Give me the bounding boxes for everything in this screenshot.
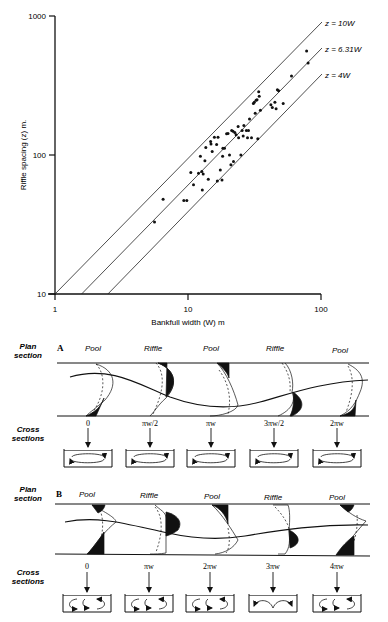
position-b-3: 3πw xyxy=(266,562,280,571)
cross-sections-b xyxy=(63,572,361,612)
position-a-2: πw xyxy=(206,419,216,428)
plan-section-label-b-1: Plan xyxy=(20,485,37,494)
data-point xyxy=(242,135,245,138)
data-point xyxy=(215,143,218,146)
data-point xyxy=(256,137,259,140)
x-tick-100: 100 xyxy=(314,305,328,314)
data-point xyxy=(232,160,235,163)
cross-section-box xyxy=(186,594,234,612)
data-point xyxy=(221,179,224,182)
data-point xyxy=(305,50,308,53)
reference-line-2 xyxy=(108,74,322,294)
cross-sections-label-a-1: Cross xyxy=(17,425,40,434)
cross-sections-a xyxy=(64,428,361,467)
position-b-0: 0 xyxy=(85,562,89,571)
x-axis-label: Bankfull width (W) m xyxy=(151,318,225,327)
cross-sections-label-b-2: sections xyxy=(12,577,45,586)
reach-b-1: Riffle xyxy=(140,491,159,500)
data-point xyxy=(162,198,165,201)
data-point xyxy=(269,103,272,106)
panel-a: Plan section A Pool Riffle Pool Riffle P… xyxy=(12,342,369,467)
cross-section-box xyxy=(125,594,173,612)
data-point xyxy=(202,173,205,176)
position-a-0: 0 xyxy=(86,419,90,428)
data-point xyxy=(199,155,202,158)
data-point xyxy=(221,155,224,158)
data-point xyxy=(257,90,260,93)
y-tick-100: 100 xyxy=(33,151,47,160)
data-point xyxy=(290,75,293,78)
data-point xyxy=(242,124,245,127)
line-label-10w: z = 10W xyxy=(324,19,356,28)
velocity-profiles-b xyxy=(87,505,366,555)
reach-a-3: Riffle xyxy=(266,344,285,353)
data-point xyxy=(273,101,276,104)
data-point xyxy=(235,133,238,136)
data-point xyxy=(219,169,222,172)
data-point xyxy=(210,143,213,146)
data-point xyxy=(248,117,251,120)
thalweg-b xyxy=(65,520,368,539)
data-point xyxy=(207,178,210,181)
position-b-1: πw xyxy=(144,562,154,571)
data-point xyxy=(228,154,231,157)
data-point xyxy=(204,146,207,149)
y-axis-label: Riffle spacing (z) m. xyxy=(19,120,28,191)
position-a-4: 2πw xyxy=(330,419,344,428)
reach-a-1: Riffle xyxy=(144,344,163,353)
data-point xyxy=(246,136,249,139)
data-point xyxy=(256,98,259,101)
position-b-4: 4πw xyxy=(330,562,344,571)
x-tick-10: 10 xyxy=(184,305,193,314)
data-point xyxy=(247,129,250,132)
x-tick-1: 1 xyxy=(53,305,58,314)
reach-b-3: Riffle xyxy=(264,493,283,502)
data-point xyxy=(189,171,192,174)
data-point xyxy=(259,109,262,112)
plan-section-label-a-2: section xyxy=(14,351,42,360)
y-tick-1000: 1000 xyxy=(28,12,46,21)
data-point xyxy=(217,136,220,139)
data-point xyxy=(258,95,261,98)
data-point xyxy=(211,150,214,153)
panel-letter-b: B xyxy=(56,489,62,499)
data-point xyxy=(250,136,253,139)
thalweg-a xyxy=(70,373,368,407)
data-point xyxy=(197,172,200,175)
data-point xyxy=(237,136,240,139)
reference-lines xyxy=(55,22,322,294)
cross-section-box xyxy=(63,594,111,612)
data-point xyxy=(271,106,274,109)
reach-b-2: Pool xyxy=(204,492,220,501)
data-point xyxy=(192,183,195,186)
data-point xyxy=(201,189,204,192)
velocity-profiles-a xyxy=(86,363,362,416)
data-point xyxy=(182,199,185,202)
cross-sections-label-a-2: sections xyxy=(12,434,45,443)
y-tick-10: 10 xyxy=(37,290,46,299)
reference-line-0 xyxy=(55,22,322,294)
scatter-chart: 1000 100 10 1 10 100 Bankfull width (W) … xyxy=(19,12,363,327)
data-point xyxy=(209,140,212,143)
data-point xyxy=(275,107,278,110)
position-a-1: πw/2 xyxy=(142,419,158,428)
panel-letter-a: A xyxy=(57,343,64,353)
data-point xyxy=(153,220,156,223)
data-point xyxy=(282,102,285,105)
data-point xyxy=(229,163,232,166)
reach-b-4: Pool xyxy=(329,493,345,502)
data-point xyxy=(307,61,310,64)
data-point xyxy=(216,180,219,183)
data-point xyxy=(237,125,240,128)
cross-section-box xyxy=(313,594,361,612)
data-point xyxy=(185,199,188,202)
cross-sections-label-b-1: Cross xyxy=(17,568,40,577)
line-label-6-31w: z = 6.31W xyxy=(324,45,363,54)
panel-b: Plan section B Pool Riffle Pool Riffle P… xyxy=(12,485,370,612)
position-b-2: 2πw xyxy=(203,562,217,571)
reach-b-0: Pool xyxy=(79,490,95,499)
data-point xyxy=(203,159,206,162)
data-point xyxy=(223,147,226,150)
data-point xyxy=(241,129,244,132)
line-label-4w: z = 4W xyxy=(324,71,352,80)
